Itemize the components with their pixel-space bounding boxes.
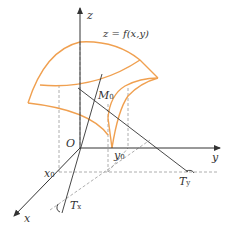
y-axis-label: y	[212, 152, 218, 163]
projection-lines	[50, 42, 218, 210]
tangent-tx-label: Tx	[70, 200, 81, 211]
z-axis-label: z	[87, 10, 93, 21]
tangent-lines	[57, 74, 194, 213]
diagram-canvas: z z = f(x,y) M0 O x0 y0 y Ty Tx x	[0, 0, 232, 231]
x-axis-label: x	[24, 213, 30, 224]
point-m0-sub: 0	[109, 93, 113, 101]
origin-label: O	[66, 138, 75, 149]
surface-equation: z = f(x,y)	[103, 29, 149, 39]
point-m0-label: M0	[98, 90, 114, 101]
ty-sub: y	[186, 179, 190, 187]
point-m0-main: M	[98, 89, 109, 102]
surface	[28, 42, 158, 148]
tx-sub: x	[77, 203, 81, 211]
y0-sub: 0	[120, 153, 124, 161]
y0-label: y0	[114, 150, 125, 161]
x0-label: x0	[44, 168, 55, 179]
tangent-ty-label: Ty	[179, 176, 190, 187]
x0-sub: 0	[50, 171, 54, 179]
